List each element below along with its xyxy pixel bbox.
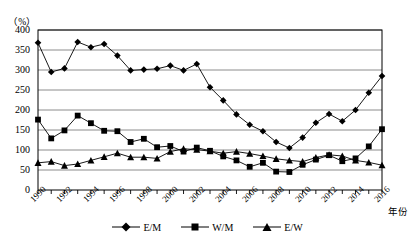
x-axis-title: 年份 <box>388 204 408 218</box>
series-w-m <box>35 113 385 175</box>
chart-plot-area <box>0 0 414 246</box>
y-axis-tick-label: 300 <box>2 64 30 75</box>
y-axis-tick-label: 200 <box>2 104 30 115</box>
legend-key-triangle-icon <box>252 221 282 233</box>
y-axis-tick-label: 400 <box>2 24 30 35</box>
y-axis-tick-label: 100 <box>2 144 30 155</box>
y-axis-tick-label: 150 <box>2 124 30 135</box>
chart-legend: E/M W/M E/W <box>0 221 414 233</box>
legend-item-ew[interactable]: E/W <box>252 221 302 233</box>
y-axis-tick-label: 250 <box>2 84 30 95</box>
legend-key-square-icon <box>180 221 210 233</box>
legend-label-ew: E/W <box>284 222 302 233</box>
series-e-m <box>35 39 386 152</box>
y-axis-tick-label: 0 <box>2 184 30 195</box>
legend-item-wm[interactable]: W/M <box>180 221 233 233</box>
legend-label-em: E/M <box>143 222 161 233</box>
legend-key-diamond-icon <box>111 221 141 233</box>
legend-label-wm: W/M <box>212 222 233 233</box>
y-axis-tick-label: 50 <box>2 164 30 175</box>
legend-item-em[interactable]: E/M <box>111 221 161 233</box>
y-axis-tick-label: 350 <box>2 44 30 55</box>
line-chart: （%） E/M W/M E/W 050100150200250300350400… <box>0 0 414 246</box>
